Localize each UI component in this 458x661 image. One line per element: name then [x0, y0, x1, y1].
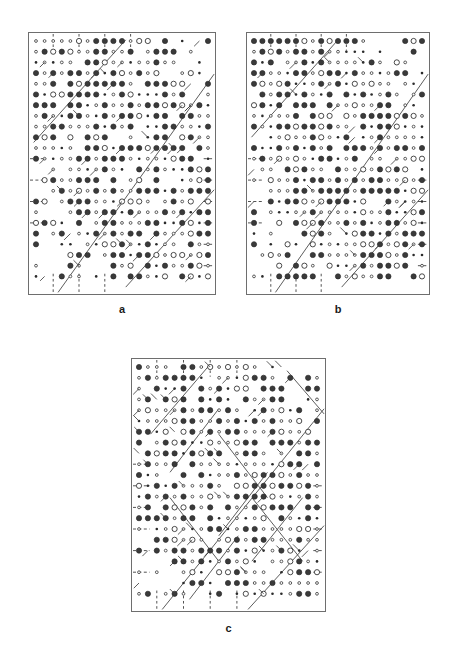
panel-a — [28, 32, 216, 295]
panel-label-b: b — [246, 303, 430, 315]
symmetry-symbol-lattice-c — [136, 364, 319, 596]
panel-label-a: a — [28, 303, 216, 315]
symmetry-diagram-c — [131, 358, 326, 612]
panel-c — [131, 358, 326, 612]
symmetry-symbol-lattice-a — [33, 38, 210, 279]
figure-root: abc — [0, 0, 458, 661]
symmetry-diagram-a — [28, 32, 216, 295]
symmetry-symbol-lattice-b — [251, 38, 424, 279]
panel-label-c: c — [131, 622, 326, 634]
symmetry-diagram-b — [246, 32, 430, 295]
panel-b — [246, 32, 430, 295]
